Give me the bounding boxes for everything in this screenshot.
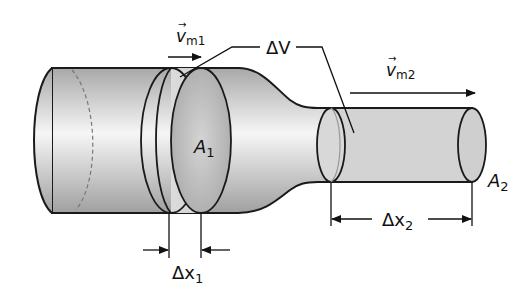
area-a2-face	[458, 108, 486, 182]
slab-2-body	[331, 108, 472, 182]
flow-continuity-diagram: vm1 → vm2 → ΔV A1 A2 Δx1 Δx2	[0, 0, 532, 296]
delta-v-label: ΔV	[266, 37, 291, 58]
volume-element-2	[317, 108, 486, 182]
velocity-2-vector-arrow: →	[388, 53, 396, 64]
velocity-1-vector-arrow: →	[178, 19, 186, 30]
area-a2-label: A2	[487, 170, 509, 194]
dx1-dimension	[143, 213, 230, 258]
slab-2-left-face	[317, 108, 345, 182]
dx2-label: Δx2	[382, 209, 413, 233]
dx1-label: Δx1	[172, 262, 203, 286]
wide-pipe-left-end	[34, 68, 52, 213]
